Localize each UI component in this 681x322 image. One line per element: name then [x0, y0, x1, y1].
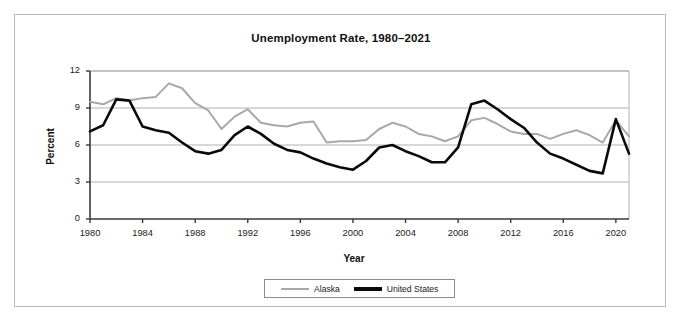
x-tick-label-1988: 1988 [173, 228, 217, 238]
x-tick-label-1980: 1980 [68, 228, 112, 238]
legend-swatch-alaska-icon [281, 288, 309, 290]
y-tick-label-3: 3 [54, 176, 80, 186]
y-tick-label-6: 6 [54, 139, 80, 149]
x-tick-label-1992: 1992 [226, 228, 270, 238]
x-tick-label-2020: 2020 [594, 228, 638, 238]
plot-area: 036912 198019841988199219962000200420082… [15, 15, 667, 308]
chart-legend: Alaska United States [264, 279, 455, 298]
x-tick-label-2000: 2000 [331, 228, 375, 238]
axis-ticks [86, 71, 616, 223]
legend-item-united-states: United States [354, 284, 439, 294]
chart-svg [15, 15, 667, 308]
x-tick-label-2012: 2012 [489, 228, 533, 238]
x-tick-label-1996: 1996 [278, 228, 322, 238]
x-tick-label-2016: 2016 [541, 228, 585, 238]
legend-label-united-states: United States [387, 284, 439, 294]
y-tick-label-9: 9 [54, 102, 80, 112]
x-tick-label-2004: 2004 [384, 228, 428, 238]
chart-figure: Unemployment Rate, 1980–2021 036912 1980… [14, 14, 666, 307]
data-series [90, 83, 629, 173]
x-axis-title: Year [79, 253, 629, 264]
legend-swatch-united-states-icon [354, 287, 382, 291]
legend-item-alaska: Alaska [281, 284, 340, 294]
legend-label-alaska: Alaska [314, 284, 340, 294]
y-tick-label-12: 12 [54, 65, 80, 75]
x-tick-label-2008: 2008 [436, 228, 480, 238]
y-tick-label-0: 0 [54, 213, 80, 223]
x-tick-label-1984: 1984 [121, 228, 165, 238]
series-line-united-states [90, 99, 629, 173]
y-axis-title: Percent [45, 102, 56, 192]
